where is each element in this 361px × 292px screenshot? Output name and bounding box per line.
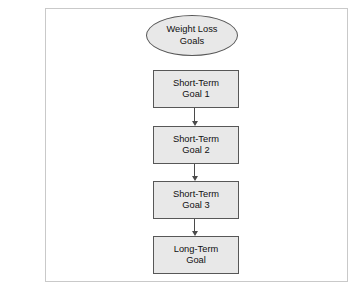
connector-arrow-st2-to-st3 <box>194 164 196 181</box>
node-label-line1: Long-Term <box>174 244 218 254</box>
goal-flowchart-diagram: Weight Loss Goals Short-Term Goal 1 Shor… <box>46 9 349 283</box>
figure-frame: Weight Loss Goals Short-Term Goal 1 Shor… <box>45 8 348 282</box>
node-label-line2: Goal 1 <box>173 89 219 100</box>
text-line: urgets <box>0 4 42 15</box>
text-line: ing a <box>0 116 42 127</box>
node-label-line2: Goal 3 <box>173 200 219 211</box>
diagram-node-weight-loss-goals: Weight Loss Goals <box>146 15 238 56</box>
connector-arrow-st3-to-lt <box>194 219 196 236</box>
text-line: esired <box>0 173 42 184</box>
diagram-node-short-term-goal-2: Short-Term Goal 2 <box>153 126 239 164</box>
connector-stem <box>194 164 195 176</box>
node-label-line1: Short-Term <box>173 78 219 88</box>
connector-stem <box>194 219 195 231</box>
body-paragraph-1: urgets mple, g dur- each other e the <box>0 4 42 73</box>
body-paragraph-2: ing a nealth male e first -term esired <box>0 116 42 185</box>
diagram-node-long-term-goal: Long-Term Goal <box>153 236 239 274</box>
diagram-node-short-term-goal-3: Short-Term Goal 3 <box>153 181 239 219</box>
node-label: Long-Term Goal <box>174 244 218 266</box>
text-line: -term <box>0 162 42 173</box>
text-line: other <box>0 50 42 61</box>
node-label-line1: Short-Term <box>173 189 219 199</box>
text-line: male <box>0 139 42 150</box>
node-label-line2: Goal <box>174 255 218 266</box>
node-label: Short-Term Goal 1 <box>173 78 219 100</box>
text-line: nealth <box>0 127 42 138</box>
node-label: Short-Term Goal 3 <box>173 189 219 211</box>
text-line: e first <box>0 150 42 161</box>
node-label: Weight Loss Goals <box>167 24 218 46</box>
node-label-line2: Goals <box>167 36 218 47</box>
node-label-line1: Short-Term <box>173 134 219 144</box>
connector-arrow-st1-to-st2 <box>194 108 196 126</box>
diagram-node-short-term-goal-1: Short-Term Goal 1 <box>153 70 239 108</box>
text-line: e the <box>0 61 42 72</box>
text-line: mple, <box>0 15 42 26</box>
body-text-column: urgets mple, g dur- each other e the ing… <box>0 0 42 292</box>
node-label: Short-Term Goal 2 <box>173 134 219 156</box>
node-label-line1: Weight Loss <box>167 24 218 34</box>
text-line: each <box>0 38 42 49</box>
connector-stem <box>194 108 195 121</box>
text-line: g dur- <box>0 27 42 38</box>
node-label-line2: Goal 2 <box>173 145 219 156</box>
